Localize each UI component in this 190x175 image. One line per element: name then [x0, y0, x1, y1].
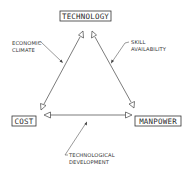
annotation-skill-availability-line1: SKILL [131, 39, 146, 45]
leader-line [65, 123, 86, 155]
leader-line [38, 42, 62, 62]
annotation-technological-development-line1: TECHNOLOGICAL [68, 152, 115, 158]
node-cost-label: COST [15, 117, 34, 126]
arrowhead-up-icon [79, 31, 84, 38]
edge-technology-manpower [92, 31, 135, 108]
arrowhead-left-icon [44, 112, 51, 118]
arrowhead-right-icon [126, 112, 133, 118]
node-manpower: MANPOWER [135, 116, 181, 126]
edge-cost-manpower [44, 112, 132, 118]
node-manpower-label: MANPOWER [139, 117, 177, 126]
node-technology: TECHNOLOGY [60, 11, 111, 21]
annotation-economic-climate: ECONOMIC CLIMATE [12, 40, 63, 63]
arrowhead-down-icon [41, 104, 47, 111]
arrowhead-down-icon [129, 102, 135, 109]
edge-line [44, 37, 80, 104]
relationship-diagram: TECHNOLOGY COST MANPOWER ECONOMIC CLIMAT… [0, 0, 190, 175]
node-cost: COST [12, 116, 36, 126]
annotation-economic-climate-line2: CLIMATE [12, 47, 35, 53]
annotation-technological-development: TECHNOLOGICAL DEVELOPMENT [65, 122, 115, 166]
leader-line [112, 42, 129, 62]
annotation-skill-availability-line2: AVAILABILITY [131, 46, 167, 52]
annotation-economic-climate-line1: ECONOMIC [12, 40, 42, 46]
arrowhead-up-icon [92, 31, 97, 38]
edge-technology-cost [41, 31, 84, 110]
edge-line [95, 37, 131, 102]
node-technology-label: TECHNOLOGY [62, 12, 109, 21]
annotation-technological-development-line2: DEVELOPMENT [69, 159, 110, 165]
annotation-skill-availability: SKILL AVAILABILITY [111, 39, 167, 64]
